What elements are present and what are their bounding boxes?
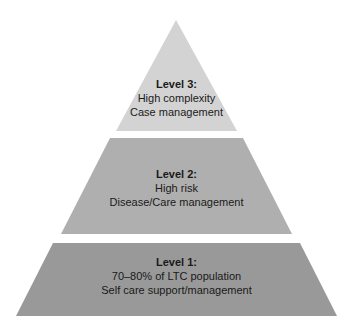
tier-level-1-title: Level 1: — [0, 255, 353, 269]
tier-level-2-title: Level 2: — [0, 167, 353, 181]
tier-level-1-label: Level 1: 70–80% of LTC population Self c… — [0, 255, 353, 297]
tier-level-2-label: Level 2: High risk Disease/Care manageme… — [0, 167, 353, 209]
tier-level-1-line1: 70–80% of LTC population — [0, 269, 353, 283]
tier-level-2-line1: High risk — [0, 181, 353, 195]
tier-level-3-line2: Case management — [0, 105, 353, 119]
tier-level-3-title: Level 3: — [0, 77, 353, 91]
tier-level-1-line2: Self care support/management — [0, 283, 353, 297]
tier-level-3-label: Level 3: High complexity Case management — [0, 77, 353, 119]
tier-level-3-line1: High complexity — [0, 91, 353, 105]
tier-level-2-line2: Disease/Care management — [0, 195, 353, 209]
